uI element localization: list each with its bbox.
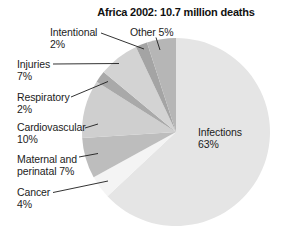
slice-label-respiratory-name: Respiratory (17, 91, 70, 103)
slice-label-intentional-pct: 2% (50, 38, 97, 50)
slice-label-respiratory: Respiratory 2% (17, 91, 70, 115)
leader-line-injuries (53, 64, 119, 65)
slice-label-infections-name: Infections (198, 126, 242, 138)
slice-label-other: Other 5% (130, 26, 174, 38)
slice-label-infections: Infections 63% (198, 126, 242, 150)
slice-label-infections-pct: 63% (198, 138, 242, 150)
slice-label-maternal-line1: Maternal and (17, 153, 77, 165)
slice-label-injuries-name: Injuries (17, 58, 50, 70)
slice-label-injuries-pct: 7% (17, 70, 50, 82)
slice-label-respiratory-pct: 2% (17, 103, 70, 115)
slice-label-cancer-pct: 4% (17, 198, 50, 210)
slice-label-cancer: Cancer 4% (17, 186, 50, 210)
slice-label-injuries: Injuries 7% (17, 58, 50, 82)
slice-label-cardiovascular-name: Cardiovascular (17, 121, 86, 133)
slice-label-other-text: Other 5% (130, 26, 174, 38)
slice-label-cardiovascular: Cardiovascular 10% (17, 121, 86, 145)
slice-label-cancer-name: Cancer (17, 186, 50, 198)
slice-label-cardiovascular-pct: 10% (17, 133, 86, 145)
slice-label-maternal-perinatal: Maternal and perinatal 7% (17, 153, 77, 177)
slice-label-intentional-name: Intentional (50, 26, 97, 38)
slice-label-intentional: Intentional 2% (50, 26, 97, 50)
slice-label-maternal-line2: perinatal 7% (17, 165, 77, 177)
figure-pie-chart: Africa 2002: 10.7 million deaths Intenti… (0, 0, 282, 233)
chart-title: Africa 2002: 10.7 million deaths (97, 6, 254, 18)
